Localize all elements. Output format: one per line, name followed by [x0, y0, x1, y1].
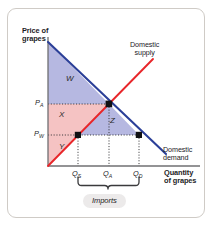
- x-axis-title-line2: of grapes: [164, 177, 196, 185]
- quantity-autarky-symbol: Q: [103, 169, 109, 178]
- imports-annotation-label: Imports: [83, 194, 126, 208]
- quantity-demanded-tick-label: QD: [133, 170, 143, 178]
- quantity-demanded-symbol: Q: [133, 169, 139, 178]
- domestic-supply-label-line2: supply: [130, 49, 159, 57]
- price-world-subscript: W: [39, 133, 44, 139]
- marker-quantity-demanded: [136, 132, 142, 138]
- marker-quantity-supplied: [75, 132, 81, 138]
- quantity-demanded-subscript: D: [139, 173, 143, 179]
- figure-card: Price of grapes Quantity of grapes Domes…: [7, 8, 205, 218]
- region-y-label: Y: [59, 143, 64, 152]
- plot-area: Price of grapes Quantity of grapes Domes…: [8, 9, 206, 219]
- domestic-demand-label-line2: demand: [163, 154, 192, 162]
- x-axis-title: Quantity of grapes: [164, 169, 196, 186]
- y-axis-title-line2: grapes: [22, 35, 48, 43]
- quantity-autarky-tick-label: QA: [103, 170, 112, 178]
- domestic-demand-label: Domestic demand: [163, 146, 192, 162]
- region-x-label: X: [59, 111, 64, 120]
- price-world-tick-label: PW: [34, 130, 44, 138]
- region-z-label: Z: [110, 117, 115, 126]
- quantity-autarky-subscript: A: [109, 173, 112, 179]
- domestic-supply-label: Domestic supply: [130, 41, 159, 57]
- y-axis-title: Price of grapes: [22, 27, 48, 44]
- price-autarky-tick-label: PA: [35, 99, 43, 107]
- marker-autarky-equilibrium: [106, 101, 113, 108]
- price-autarky-subscript: A: [40, 102, 43, 108]
- quantity-supplied-tick-label: QS: [72, 170, 81, 178]
- quantity-supplied-subscript: S: [78, 173, 81, 179]
- quantity-supplied-symbol: Q: [72, 169, 78, 178]
- region-w-label: W: [66, 75, 74, 84]
